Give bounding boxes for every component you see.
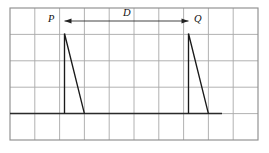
figure-canvas	[0, 0, 269, 153]
waveform-figure: P D Q	[0, 0, 269, 153]
pulse-p-label: P	[48, 14, 54, 25]
pulse-q-label: Q	[194, 14, 202, 25]
arrowhead-left-icon	[65, 18, 72, 23]
dimension-arrow-d	[65, 18, 189, 23]
arrowhead-right-icon	[182, 18, 189, 23]
separation-label: D	[123, 8, 131, 19]
pulse-q-trace	[189, 34, 209, 114]
pulse-p-trace	[65, 34, 85, 114]
